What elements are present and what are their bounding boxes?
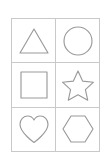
grid-cell-triangle[interactable]: Triangle bbox=[12, 19, 56, 63]
grid-cell-square[interactable]: Square bbox=[12, 63, 56, 107]
grid-cell-hexagon[interactable]: Hexagon bbox=[56, 108, 100, 152]
page-canvas: Triangle Circle Square Star Heart bbox=[0, 0, 112, 164]
circle-icon bbox=[62, 25, 94, 57]
grid-cell-star[interactable]: Star bbox=[56, 63, 100, 107]
grid-cell-circle[interactable]: Circle bbox=[56, 19, 100, 63]
grid-cell-heart[interactable]: Heart bbox=[12, 108, 56, 152]
hexagon-icon bbox=[61, 114, 95, 144]
star-icon bbox=[61, 69, 95, 101]
shape-grid: Triangle Circle Square Star Heart bbox=[11, 18, 100, 152]
triangle-icon bbox=[18, 26, 50, 56]
heart-icon bbox=[18, 114, 50, 144]
square-icon bbox=[19, 70, 49, 100]
